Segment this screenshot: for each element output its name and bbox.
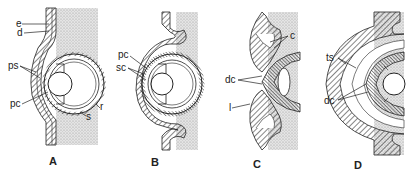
- label-d-ts: ts: [326, 53, 334, 63]
- panel-label-d: D: [354, 159, 362, 171]
- panel-label-c: C: [253, 158, 261, 170]
- label-a-r: r: [100, 102, 103, 112]
- label-a-s: s: [86, 112, 91, 122]
- panel-a-drawing: [31, 8, 104, 145]
- label-b-pc: pc: [118, 50, 129, 60]
- label-a-ps: ps: [8, 61, 19, 71]
- label-a-pc: pc: [10, 99, 21, 109]
- label-a-d: d: [17, 28, 23, 38]
- panel-d-drawing: [326, 12, 405, 155]
- label-c-dc: dc: [225, 75, 236, 85]
- label-c-l: l: [229, 103, 231, 113]
- label-b-sc: sc: [116, 63, 126, 73]
- panel-label-a: A: [49, 155, 57, 167]
- label-c-c: c: [290, 31, 295, 41]
- panel-label-b: B: [151, 156, 159, 168]
- panel-b-drawing: [136, 12, 202, 150]
- eye-diagram-figure: [0, 0, 419, 177]
- label-d-dc: dc: [324, 96, 335, 106]
